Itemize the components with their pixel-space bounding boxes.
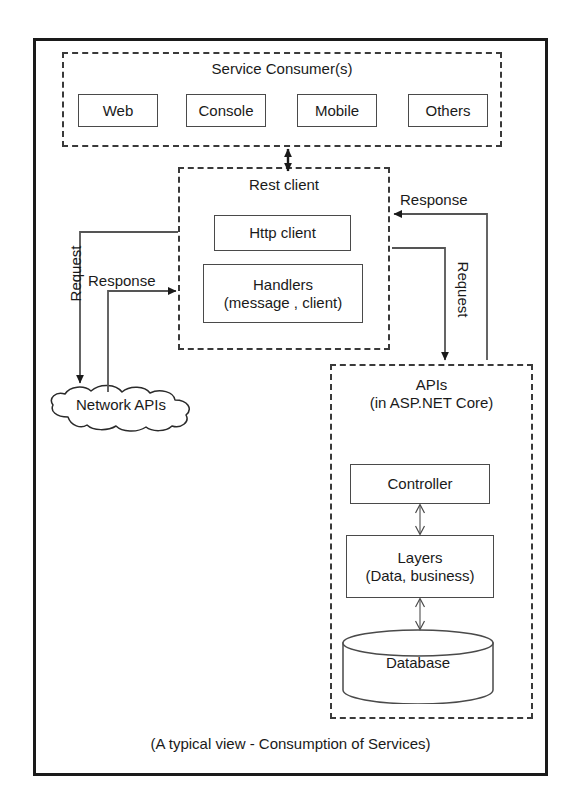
consumer-box-web[interactable]: Web	[78, 94, 158, 127]
consumer-box-others[interactable]: Others	[408, 94, 488, 127]
consumer-box-mobile[interactable]: Mobile	[297, 94, 377, 127]
label-response-right: Response	[400, 191, 468, 208]
handlers-box[interactable]: Handlers (message , client)	[203, 264, 363, 323]
apis-title: APIs (in ASP.NET Core)	[332, 376, 531, 413]
controller-box[interactable]: Controller	[350, 464, 490, 504]
label-request-left: Request	[67, 229, 84, 319]
layers-box[interactable]: Layers (Data, business)	[346, 535, 494, 598]
http-client-box[interactable]: Http client	[214, 215, 351, 251]
service-consumer-title: Service Consumer(s)	[64, 60, 500, 78]
database-label: Database	[342, 654, 494, 671]
rest-client-title: Rest client	[180, 176, 388, 194]
consumer-box-console[interactable]: Console	[186, 94, 266, 127]
diagram-canvas: Service Consumer(s) Web Console Mobile O…	[0, 0, 580, 805]
label-request-right: Request	[455, 245, 472, 335]
network-apis-label: Network APIs	[46, 396, 196, 413]
label-response-left: Response	[88, 272, 156, 289]
diagram-caption: (A typical view - Consumption of Service…	[36, 735, 545, 752]
